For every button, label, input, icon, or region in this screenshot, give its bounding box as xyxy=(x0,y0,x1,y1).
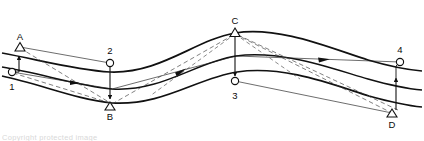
label-4: 4 xyxy=(397,44,402,55)
flow-chord-mid xyxy=(112,56,236,89)
marker-2-circle xyxy=(106,59,113,66)
dashed-ray-C-to-D xyxy=(235,34,392,113)
marker-D-triangle xyxy=(387,109,397,117)
dashed-ray-lines xyxy=(13,34,398,113)
vertical-connectors xyxy=(12,36,400,110)
marker-3-circle xyxy=(231,77,238,84)
label-1: 1 xyxy=(9,81,14,92)
dashed-ray-fan-c xyxy=(150,34,300,96)
label-B: B xyxy=(107,111,113,122)
label-D: D xyxy=(389,119,396,130)
wave-ray-diagram-svg: A B C D 1 2 3 4 xyxy=(0,0,424,141)
marker-A-triangle xyxy=(15,43,25,52)
dashed-ray-1-to-B xyxy=(13,73,110,103)
dashed-ray-C-to-4-lower xyxy=(238,35,398,110)
wave-curves xyxy=(2,32,422,107)
label-2: 2 xyxy=(107,45,112,56)
marker-1-circle xyxy=(8,68,15,75)
figure-caption: Copyright protected image xyxy=(2,133,97,141)
upper-wave-curve xyxy=(2,32,422,72)
marker-4-circle xyxy=(396,58,403,65)
flow-chord-upper-left xyxy=(20,47,110,63)
label-A: A xyxy=(17,31,24,42)
label-C: C xyxy=(232,15,239,26)
flow-chord-lower-right xyxy=(235,81,392,113)
dashed-fan-c-left xyxy=(150,34,235,96)
flow-chord-left xyxy=(12,72,112,89)
middle-wave-curve xyxy=(2,55,422,90)
flow-arrow-3 xyxy=(318,58,330,63)
flow-chord-right xyxy=(236,56,400,62)
label-3: 3 xyxy=(232,90,237,101)
